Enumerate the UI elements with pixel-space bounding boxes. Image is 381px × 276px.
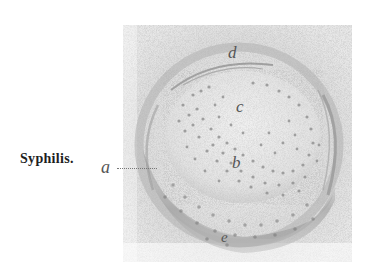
label-b: b bbox=[232, 154, 241, 171]
label-a-leader-line bbox=[117, 168, 157, 169]
label-a: a bbox=[101, 158, 110, 176]
histology-illustration bbox=[123, 25, 352, 262]
label-e: e bbox=[221, 230, 228, 245]
vessel-cross-section-drawing bbox=[123, 25, 352, 262]
label-d: d bbox=[228, 44, 237, 61]
figure-caption: Syphilis. bbox=[20, 151, 74, 167]
label-c: c bbox=[236, 98, 244, 115]
